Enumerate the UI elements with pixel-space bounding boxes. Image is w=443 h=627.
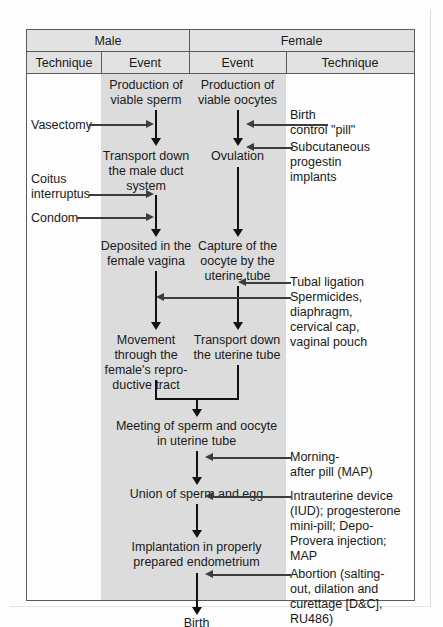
header-female-technique: Technique <box>286 52 414 73</box>
header-group-male: Male <box>27 30 189 51</box>
header-divider-1 <box>101 52 102 74</box>
arrow-m3-m4-head <box>151 322 161 330</box>
arrow-s1-s2-head <box>192 477 202 485</box>
header-divider-male-female <box>189 30 190 52</box>
technique-iud-group: Intrauterine device (IUD); progesterone … <box>290 489 420 564</box>
connector-condom-head <box>146 213 154 221</box>
arrow-f3-f4-head <box>233 322 243 330</box>
arrow-m1-m2-head <box>151 138 161 146</box>
connector-spermicides-line <box>163 297 291 299</box>
connector-vasectomy-line <box>89 124 147 126</box>
technique-abortion-group: Abortion (salting- out, dilation and cur… <box>290 567 420 627</box>
event-union: Union of sperm and egg <box>75 487 318 502</box>
connector-map-head <box>205 453 213 461</box>
page-canvas: Male Female Technique Event Event Techni… <box>0 0 443 627</box>
connector-abortion-head <box>205 570 213 578</box>
header-divider-2 <box>189 52 190 74</box>
arrow-f1-f2-line <box>237 110 239 140</box>
header-group-female: Female <box>189 30 414 51</box>
connector-coitus-head <box>146 190 154 198</box>
technique-birth-control-pill: Birth control "pill" <box>290 108 416 138</box>
event-female-ovulation: Ovulation <box>189 149 286 164</box>
connector-pill-head <box>246 120 254 128</box>
header-row-groups: Male Female <box>27 30 414 52</box>
arrow-m1-m2-line <box>155 110 157 140</box>
connector-vasectomy-head <box>146 120 154 128</box>
arrow-f2-f3-head <box>233 229 243 237</box>
technique-tubal-ligation: Tubal ligation <box>290 275 416 290</box>
connector-coitus-line <box>89 194 147 196</box>
connector-pill-line <box>253 124 328 126</box>
header-female-event: Event <box>189 52 286 73</box>
event-male-transport: Transport down the male duct system <box>99 149 193 194</box>
arrow-m2-m3-line <box>155 195 157 231</box>
event-male-movement: Movement through the female's repro- duc… <box>97 333 195 393</box>
event-male-production: Production of viable sperm <box>101 78 191 108</box>
connector-abortion-line <box>212 574 291 576</box>
technique-spermicides: Spermicides, diaphragm, cervical cap, va… <box>290 290 416 350</box>
header-male-technique: Technique <box>27 52 101 73</box>
arrow-f1-f2-head <box>233 138 243 146</box>
header-divider-3 <box>286 52 287 74</box>
merge-left-stem <box>155 380 157 400</box>
connector-tubal-line <box>245 282 291 284</box>
event-female-production: Production of viable oocytes <box>189 78 286 108</box>
connector-iud-line <box>212 496 291 498</box>
arrow-s2-s3-head <box>192 530 202 538</box>
technique-coitus-interruptus: Coitus interruptus <box>31 172 103 202</box>
flowchart-table: Male Female Technique Event Event Techni… <box>26 29 415 601</box>
technique-morning-after-pill: Morning- after pill (MAP) <box>290 450 416 480</box>
connector-implants-line <box>253 147 293 149</box>
arrow-s2-s3-line <box>196 504 198 532</box>
connector-iud-head <box>205 492 213 500</box>
arrow-s1-s2-line <box>196 451 198 479</box>
connector-spermicides-head <box>156 293 164 301</box>
arrow-s3-birth-head <box>192 607 202 615</box>
merge-right-stem <box>237 365 239 400</box>
technique-vasectomy: Vasectomy <box>31 118 103 133</box>
arrow-m2-m3-head <box>151 229 161 237</box>
arrow-s3-birth-line <box>196 573 198 609</box>
header-male-event: Event <box>101 52 189 73</box>
event-male-deposited: Deposited in the female vagina <box>95 239 197 269</box>
event-female-transport: Transport down the uterine tube <box>185 333 289 363</box>
arrow-f2-f3-line <box>237 167 239 231</box>
event-meeting: Meeting of sperm and oocyte in uterine t… <box>75 419 318 449</box>
connector-map-line <box>212 457 291 459</box>
event-implantation: Implantation in properly prepared endome… <box>75 540 318 570</box>
technique-progestin-implants: Subcutaneous progestin implants <box>290 140 416 185</box>
event-birth: Birth <box>137 616 256 627</box>
technique-condom: Condom <box>31 211 103 226</box>
connector-tubal-head <box>238 278 246 286</box>
header-row-columns: Technique Event Event Technique <box>27 52 414 74</box>
connector-implants-head <box>246 143 254 151</box>
merge-down-head <box>192 409 202 417</box>
connector-condom-line <box>77 217 147 219</box>
arrow-f3-f4-line <box>237 286 239 324</box>
